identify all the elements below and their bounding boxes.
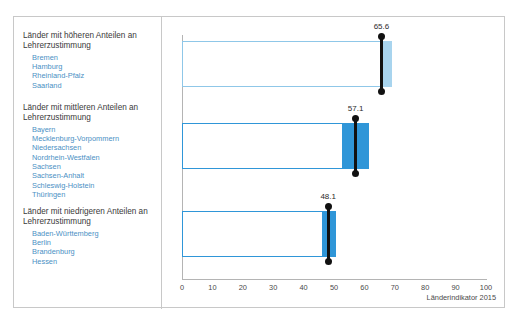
state-item: Bremen	[23, 53, 159, 62]
state-item: Thüringen	[23, 190, 159, 199]
x-tick-60: 60	[352, 283, 376, 292]
plot-area: 0102030405060708090100 65.657.148.1	[162, 17, 505, 309]
marker-cap-bottom	[378, 88, 385, 95]
state-item: Berlin	[23, 238, 159, 247]
group-heading-low: Länder mit niedrigeren Anteilen an Lehre…	[23, 207, 159, 228]
state-item: Schleswig-Holstein	[23, 181, 159, 190]
state-item: Bayern	[23, 125, 159, 134]
x-tick-0: 0	[170, 283, 194, 292]
figure-frame: Länder mit höheren Anteilen an Lehrerzus…	[13, 16, 505, 308]
group-heading-high: Länder mit höheren Anteilen an Lehrerzus…	[23, 31, 159, 52]
x-tick-30: 30	[261, 283, 285, 292]
x-tick-80: 80	[413, 283, 437, 292]
bar-whisker-box	[182, 211, 323, 257]
state-item: Niedersachsen	[23, 143, 159, 152]
label-column: Länder mit höheren Anteilen an Lehrerzus…	[14, 17, 162, 309]
state-item: Mecklenburg-Vorpommern	[23, 134, 159, 143]
x-tick-20: 20	[231, 283, 255, 292]
bar-row[interactable]: 57.1	[162, 123, 505, 169]
bar-row[interactable]: 48.1	[162, 211, 505, 257]
bar-value-label: 57.1	[336, 104, 376, 113]
bar-row[interactable]: 65.6	[162, 41, 505, 87]
marker-cap-top	[352, 115, 359, 122]
state-item: Rheinland-Pfalz	[23, 71, 159, 80]
marker-cap-top	[325, 203, 332, 210]
bar-whisker-box	[182, 123, 343, 169]
group-block-mid: Länder mit mittleren Anteilen an Lehrerz…	[23, 103, 159, 199]
marker-cap-bottom	[352, 170, 359, 177]
x-tick-100: 100	[474, 283, 498, 292]
state-item: Hamburg	[23, 62, 159, 71]
state-item: Sachsen-Anhalt	[23, 171, 159, 180]
state-item: Saarland	[23, 81, 159, 90]
state-item: Nordrhein-Westfalen	[23, 153, 159, 162]
median-marker	[327, 206, 330, 262]
bar-value-label: 48.1	[308, 192, 348, 201]
marker-cap-bottom	[325, 258, 332, 265]
group-heading-mid: Länder mit mittleren Anteilen an Lehrerz…	[23, 103, 159, 124]
group-block-high: Länder mit höheren Anteilen an Lehrerzus…	[23, 31, 159, 90]
median-marker	[354, 118, 357, 174]
median-marker	[380, 36, 383, 92]
footer-source: Länderindikator 2015	[427, 293, 496, 302]
bar-whisker-box	[182, 41, 381, 87]
x-tick-50: 50	[322, 283, 346, 292]
state-item: Sachsen	[23, 162, 159, 171]
marker-cap-top	[378, 33, 385, 40]
x-tick-70: 70	[383, 283, 407, 292]
x-tick-90: 90	[444, 283, 468, 292]
state-item: Baden-Württemberg	[23, 229, 159, 238]
state-item: Brandenburg	[23, 247, 159, 256]
group-block-low: Länder mit niedrigeren Anteilen an Lehre…	[23, 207, 159, 266]
state-item: Hessen	[23, 257, 159, 266]
x-tick-40: 40	[292, 283, 316, 292]
bar-value-label: 65.6	[361, 22, 401, 31]
x-axis-line	[182, 279, 487, 280]
x-tick-10: 10	[200, 283, 224, 292]
top-caption	[0, 0, 519, 12]
